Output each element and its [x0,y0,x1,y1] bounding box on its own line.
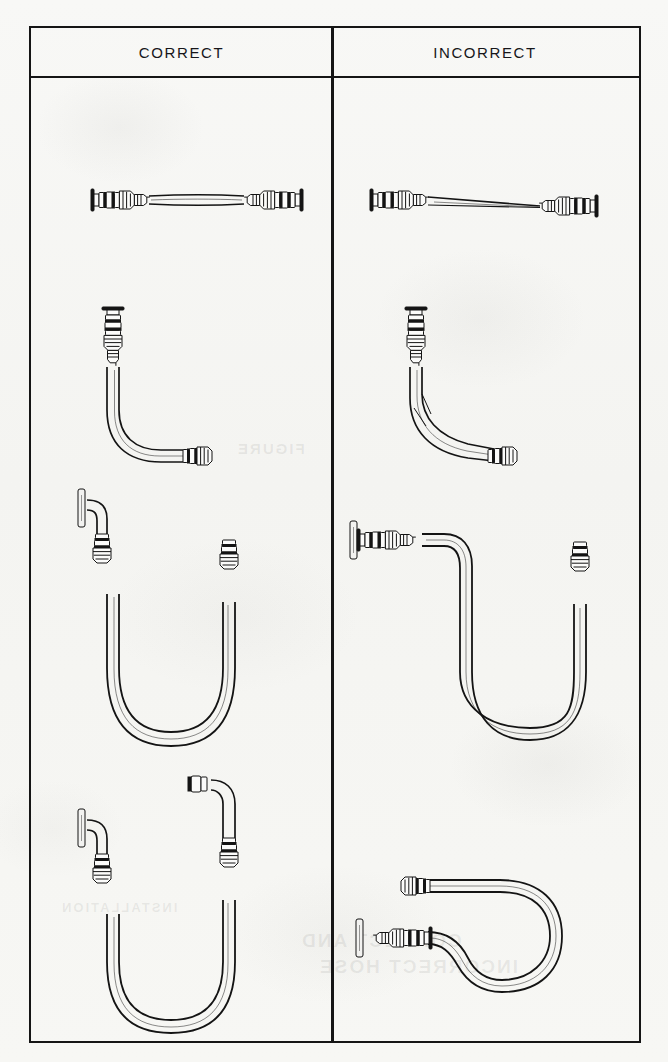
column-header-incorrect: INCORRECT [332,28,638,76]
illustration-incorrect-row-3 [350,521,589,740]
table-header-row: CORRECT INCORRECT [31,28,639,78]
correct-column-illustrations [31,78,331,1041]
illustration-incorrect-row-2 [405,307,517,465]
illustration-incorrect-row-1 [370,189,598,217]
illustration-correct-row-3 [78,489,238,746]
scanned-page: FIGURE CORRECT AND INCORRECT HOSE INSTAL… [0,0,668,1062]
illustration-correct-row-2 [102,307,212,465]
illustration-correct-row-1 [91,189,303,211]
illustration-incorrect-row-4 [356,877,562,992]
column-header-correct: CORRECT [31,28,332,76]
comparison-table: CORRECT INCORRECT [29,26,641,1043]
illustration-correct-row-4 [78,776,238,1033]
incorrect-column-illustrations [334,78,638,1041]
